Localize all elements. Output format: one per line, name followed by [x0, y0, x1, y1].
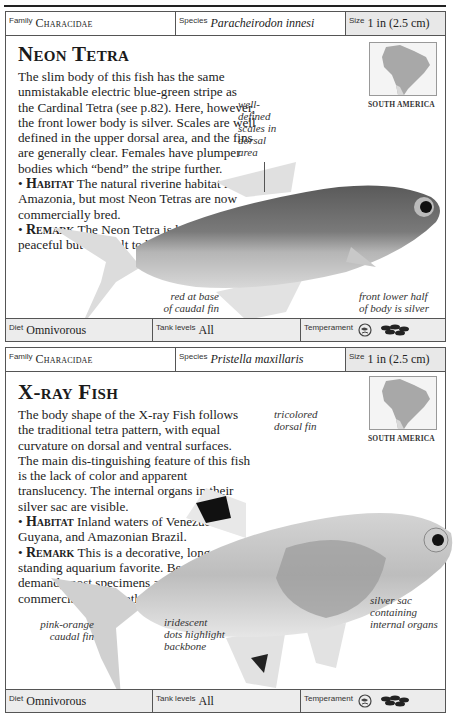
species-title: X-ray Fish — [18, 380, 118, 405]
species-cell: Species Paracheirodon innesi — [176, 12, 346, 35]
shoaling-fish-icon — [380, 695, 410, 707]
family-label: Family — [9, 352, 33, 361]
family-label: Family — [9, 16, 33, 25]
tank-levels-label: Tank levels — [156, 323, 196, 332]
species-title: Neon Tetra — [18, 42, 129, 67]
size-value: 1 in (2.5 cm) — [368, 16, 430, 31]
south-america-map-icon — [370, 43, 436, 95]
size-value: 1 in (2.5 cm) — [368, 352, 430, 367]
map-label: SOUTH AMERICA — [368, 434, 435, 443]
entry-footer: Diet Omnivorous Tank levels All Temperam… — [6, 689, 445, 712]
diet-label: Diet — [9, 694, 23, 703]
annotation-caudal-text: red at base of caudal fin — [163, 290, 219, 314]
annotation-dorsal-scales-text: well- defined scales in dorsal area — [238, 98, 276, 158]
entry-header: Family Characidae Species Paracheirodon … — [6, 12, 445, 36]
tank-levels-cell: Tank levels All — [153, 690, 301, 712]
species-value: Pristella maxillaris — [210, 352, 303, 367]
annotation-backbone-dots-text: iridescent dots highlight backbone — [164, 616, 225, 652]
size-cell: Size 1 in (2.5 cm) — [346, 12, 445, 35]
tank-levels-cell: Tank levels All — [153, 319, 301, 341]
temperament-label: Temperament — [304, 323, 353, 332]
family-value: Characidae — [36, 352, 93, 367]
annotation-dorsal-fin-text: tricolored dorsal fin — [274, 408, 318, 432]
annotation-silver: front lower half of body is silver — [359, 290, 444, 314]
diet-value: Omnivorous — [26, 323, 86, 338]
temperament-cell: Temperament — [301, 690, 445, 712]
size-label: Size — [349, 352, 365, 361]
peaceful-fish-icon — [358, 323, 372, 337]
tank-levels-value: All — [199, 694, 214, 709]
size-cell: Size 1 in (2.5 cm) — [346, 348, 445, 371]
species-cell: Species Pristella maxillaris — [176, 348, 346, 371]
shoaling-fish-icon — [380, 324, 410, 336]
diet-cell: Diet Omnivorous — [6, 319, 153, 341]
annotation-caudal: red at base of caudal fin — [144, 290, 219, 314]
diet-cell: Diet Omnivorous — [6, 690, 153, 712]
range-map — [369, 376, 437, 430]
annotation-silver-sac-text: silver sac containing internal organs — [370, 594, 438, 630]
diet-label: Diet — [9, 323, 23, 332]
entry-footer: Diet Omnivorous Tank levels All Temperam… — [6, 318, 445, 341]
range-map — [369, 42, 437, 96]
family-cell: Family Characidae — [6, 12, 176, 35]
xray-fish-illustration — [46, 458, 456, 698]
temperament-label: Temperament — [304, 694, 353, 703]
annotation-caudal-fin-text: pink-orange caudal fin — [40, 618, 94, 642]
leader-line — [264, 162, 265, 192]
annotation-backbone-dots: iridescent dots highlight backbone — [164, 616, 244, 652]
annotation-dorsal-fin: tricolored dorsal fin — [274, 408, 364, 432]
species-entry-neon-tetra: Family Characidae Species Paracheirodon … — [5, 11, 446, 342]
entry-header: Family Characidae Species Pristella maxi… — [6, 348, 445, 372]
tank-levels-value: All — [199, 323, 214, 338]
temperament-cell: Temperament — [301, 319, 445, 341]
peaceful-fish-icon — [358, 694, 372, 708]
family-value: Characidae — [36, 16, 93, 31]
species-value: Paracheirodon innesi — [210, 16, 314, 31]
top-rule — [4, 5, 446, 7]
south-america-map-icon — [370, 377, 436, 429]
annotation-caudal-fin: pink-orange caudal fin — [36, 618, 94, 642]
annotation-silver-sac: silver sac containing internal organs — [370, 594, 450, 630]
species-entry-xray-fish: Family Characidae Species Pristella maxi… — [5, 347, 446, 713]
annotation-dorsal-scales: well- defined scales in dorsal area — [238, 98, 288, 158]
map-label: SOUTH AMERICA — [368, 100, 435, 109]
annotation-silver-text: front lower half of body is silver — [359, 290, 429, 314]
diet-value: Omnivorous — [26, 694, 86, 709]
species-label: Species — [179, 352, 207, 361]
species-label: Species — [179, 16, 207, 25]
tank-levels-label: Tank levels — [156, 694, 196, 703]
size-label: Size — [349, 16, 365, 25]
family-cell: Family Characidae — [6, 348, 176, 371]
